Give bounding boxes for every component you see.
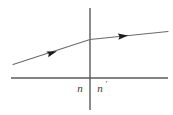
refraction-diagram: n n ′: [0, 0, 173, 115]
refracted-ray: [90, 32, 168, 40]
label-refractive-index-n-prime: n ′: [97, 80, 107, 94]
label-refractive-index-n: n: [77, 82, 83, 94]
diagram-canvas: n n ′: [0, 0, 173, 115]
incident-ray-direction-arrow-icon: [46, 48, 58, 57]
label-refractive-index-n-prime-mark: ′: [105, 80, 107, 89]
label-refractive-index-n-prime-base: n: [97, 82, 103, 94]
